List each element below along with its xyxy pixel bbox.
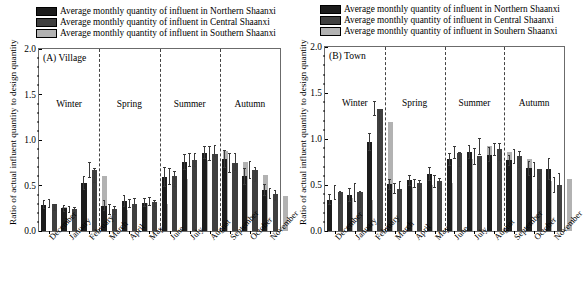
y-minor-tick	[323, 221, 325, 222]
error-cap	[513, 163, 516, 164]
error-bar	[494, 143, 495, 156]
error-bar	[369, 133, 370, 151]
y-tick-mark	[325, 185, 328, 186]
error-bar	[235, 153, 236, 171]
legend-label-central: Average monthly quantity of influent in …	[344, 16, 554, 25]
bar-with-error	[517, 47, 522, 231]
error-cap	[234, 153, 237, 154]
error-cap	[128, 199, 131, 200]
error-cap	[368, 150, 371, 151]
y-tick-label: 1.0	[310, 134, 325, 144]
error-cap	[153, 206, 156, 207]
error-cap	[453, 146, 456, 147]
error-cap	[93, 168, 96, 169]
error-cap	[518, 167, 521, 168]
legend-label-central: Average monthly quantity of influent in …	[60, 18, 270, 27]
error-cap	[263, 184, 266, 185]
error-cap	[188, 166, 191, 167]
error-bar	[399, 181, 400, 192]
y-minor-tick	[37, 76, 39, 77]
bar-with-error	[477, 47, 482, 231]
legend-item-northern: Average monthly quantity of influent in …	[36, 6, 276, 17]
legend-swatch-northern	[36, 7, 57, 16]
error-cap	[408, 175, 411, 176]
error-cap	[548, 158, 551, 159]
error-bar	[514, 149, 515, 164]
y-tick-mark	[325, 47, 328, 48]
error-cap	[458, 166, 461, 167]
error-cap	[399, 181, 402, 182]
bar-with-error	[397, 47, 402, 231]
y-minor-tick	[37, 149, 39, 150]
error-cap	[68, 206, 71, 207]
y-tick-label: 2.0	[310, 42, 325, 52]
bar-with-error	[252, 49, 257, 231]
y-tick-label: 0.0	[310, 226, 325, 236]
error-bar	[269, 188, 270, 199]
error-cap	[488, 147, 491, 148]
error-cap	[133, 198, 136, 199]
error-cap	[208, 160, 211, 161]
error-cap	[113, 206, 116, 207]
y-tick-mark	[39, 231, 42, 232]
error-bar	[149, 197, 150, 206]
error-cap	[123, 206, 126, 207]
error-bar	[548, 158, 549, 180]
season-divider	[385, 47, 386, 231]
error-bar	[194, 153, 195, 168]
error-bar	[255, 167, 256, 182]
error-cap	[428, 180, 431, 181]
y-tick-label: 1.0	[24, 135, 39, 145]
error-cap	[133, 206, 136, 207]
bar-with-error	[497, 47, 502, 231]
error-cap	[488, 161, 491, 162]
error-cap	[128, 207, 131, 208]
error-cap	[533, 176, 536, 177]
bar-group	[546, 47, 562, 231]
error-cap	[173, 186, 176, 187]
error-bar	[144, 198, 145, 207]
y-tick-label: 1.5	[310, 88, 325, 98]
y-minor-tick	[37, 67, 39, 68]
error-cap	[254, 181, 257, 182]
error-cap	[43, 208, 46, 209]
season-label: Autumn	[519, 98, 550, 108]
season-label: Autumn	[235, 99, 266, 109]
error-cap	[148, 205, 151, 206]
error-bar	[409, 175, 410, 186]
error-cap	[448, 153, 451, 154]
error-cap	[48, 199, 51, 200]
error-cap	[53, 210, 56, 211]
error-cap	[113, 214, 116, 215]
y-minor-tick	[37, 176, 39, 177]
y-tick-label: 0.0	[24, 226, 39, 236]
error-cap	[379, 111, 382, 112]
bar-group	[122, 49, 138, 231]
error-cap	[163, 186, 166, 187]
error-cap	[339, 191, 342, 192]
legend-item-northern: Average monthly quantity of influent in …	[320, 4, 560, 15]
error-bar	[360, 191, 361, 208]
error-bar	[184, 154, 185, 170]
error-cap	[183, 154, 186, 155]
bar-group	[467, 47, 483, 231]
error-cap	[153, 200, 156, 201]
error-cap	[418, 189, 421, 190]
error-bar	[334, 185, 335, 200]
y-minor-tick	[323, 102, 325, 103]
error-cap	[553, 177, 556, 178]
error-cap	[433, 187, 436, 188]
y-minor-tick	[37, 221, 39, 222]
legend-panel-b: Average monthly quantity of influent in …	[320, 4, 560, 37]
bar-group	[262, 49, 278, 231]
legend-item-southern: Average monthly quantity of influent in …	[320, 26, 560, 37]
season-label: Winter	[342, 98, 368, 108]
error-bar	[174, 171, 175, 187]
error-cap	[428, 167, 431, 168]
error-cap	[359, 191, 362, 192]
y-axis-title-b: Ratio of actual influent quantity to des…	[298, 45, 308, 225]
y-minor-tick	[323, 74, 325, 75]
y-minor-tick	[323, 175, 325, 176]
error-bar	[454, 146, 455, 159]
error-bar	[94, 168, 95, 183]
